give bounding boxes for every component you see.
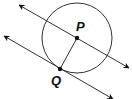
- geometry-diagram: P Q: [0, 0, 132, 99]
- point-q-label: Q: [51, 73, 61, 88]
- point-q-dot: [58, 67, 62, 71]
- point-p-label: P: [76, 19, 85, 34]
- radius-pq: [60, 38, 77, 69]
- line-through-p: [19, 5, 129, 68]
- point-p-dot: [75, 36, 79, 40]
